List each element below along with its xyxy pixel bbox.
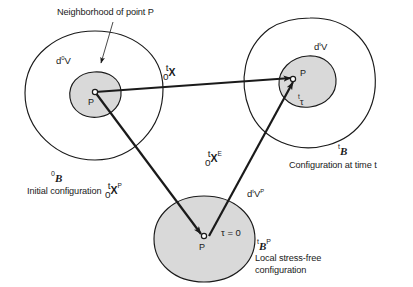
initial-point-p-label: P (88, 97, 94, 107)
point-p-stressfree-marker (201, 233, 206, 238)
current-volume-label: dtV (314, 42, 327, 53)
diagram-canvas (0, 0, 413, 287)
stressfree-point-p-label: P (199, 242, 205, 252)
current-point-p-label: P (300, 68, 306, 78)
vector-label-total-deformation: t0X (163, 62, 176, 81)
current-stress-label: tτ (298, 91, 304, 109)
current-body-symbol: tB (338, 141, 347, 159)
stressfree-volume-label: dtVP (247, 189, 264, 200)
initial-volume-label: d0V (56, 56, 71, 67)
stressfree-body-symbol: tBP (257, 236, 271, 254)
point-p-initial-marker (92, 89, 97, 94)
point-p-current-marker (290, 76, 295, 81)
current-configuration-caption: Configuration at time t (289, 160, 377, 170)
vector-label-elastic-deformation: t0XE (205, 148, 222, 167)
initial-body-symbol: 0B (51, 168, 62, 186)
initial-configuration-caption: Initial configuration (27, 186, 102, 196)
neighborhood-annotation-label: Neighborhood of point P (57, 7, 154, 17)
deformation-configuration-diagram: Neighborhood of point P d0V P 0B Initial… (0, 0, 413, 287)
stressfree-caption-line-2: configuration (255, 265, 306, 275)
stressfree-caption-line-1: Local stress-free (255, 253, 321, 263)
stressfree-stress-value: τ = 0 (221, 228, 241, 239)
vector-label-plastic-deformation: t0XP (105, 180, 122, 199)
